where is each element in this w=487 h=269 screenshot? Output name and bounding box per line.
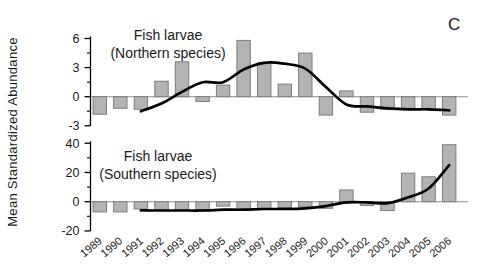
y-tick-label: -20 — [61, 224, 79, 238]
figure-panel: Mean Standardized Abundance C Fish larva… — [0, 0, 487, 269]
bar-1992 — [155, 81, 168, 97]
x-tick-label-1989: 1989 — [78, 234, 104, 259]
y-tick-label: 3 — [73, 61, 80, 75]
bar-1991 — [134, 202, 147, 209]
panel-label: C — [448, 15, 460, 34]
x-tick-label-2006: 2006 — [427, 234, 453, 259]
bar-1994 — [196, 97, 209, 102]
x-tick-label-1992: 1992 — [139, 234, 165, 259]
bar-1991 — [134, 97, 147, 110]
bar-1999 — [299, 202, 312, 207]
x-tick-label-1997: 1997 — [242, 234, 268, 259]
x-tick-label-1999: 1999 — [283, 234, 309, 259]
x-tick-label-1994: 1994 — [180, 234, 206, 259]
bar-2001 — [340, 190, 353, 202]
bar-1999 — [299, 53, 312, 97]
bar-2002 — [360, 97, 373, 113]
y-tick-label: 20 — [66, 166, 80, 180]
bar-1993 — [175, 202, 188, 210]
bar-2001 — [340, 91, 353, 97]
x-axis-year-labels: 1989199019911992199319941995199619971998… — [78, 234, 454, 259]
dual-bar-line-chart: Mean Standardized Abundance C Fish larva… — [0, 0, 487, 269]
bar-1992 — [155, 202, 168, 210]
bar-1997 — [258, 63, 271, 97]
y-tick-label: 40 — [66, 137, 80, 151]
bar-2000 — [319, 97, 332, 115]
bar-2004 — [401, 97, 414, 109]
bar-1989 — [93, 202, 106, 212]
x-tick-label-1998: 1998 — [263, 234, 289, 259]
x-tick-label-1993: 1993 — [160, 234, 186, 259]
x-tick-label-2004: 2004 — [386, 234, 412, 259]
chart-subtitle-northern: (Northern species) — [110, 45, 225, 61]
x-tick-label-1991: 1991 — [119, 234, 145, 259]
y-tick-label: 0 — [73, 195, 80, 209]
bar-1994 — [196, 202, 209, 210]
bar-1990 — [114, 202, 127, 212]
bar-1995 — [216, 202, 229, 206]
x-tick-label-2003: 2003 — [365, 234, 391, 259]
bar-1998 — [278, 202, 291, 208]
y-tick-label: -3 — [68, 119, 79, 133]
x-tick-label-1995: 1995 — [201, 234, 227, 259]
x-tick-label-2005: 2005 — [406, 234, 432, 259]
y-tick-label: 0 — [73, 90, 80, 104]
x-tick-label-1996: 1996 — [221, 234, 247, 259]
x-tick-label-2000: 2000 — [304, 234, 330, 259]
chart-subtitle-southern: (Southern species) — [99, 166, 217, 182]
bar-2006 — [443, 145, 456, 202]
chart-southern-species: -2002040 — [61, 137, 468, 239]
x-tick-label-2002: 2002 — [345, 234, 371, 259]
bar-1995 — [216, 85, 229, 97]
x-tick-label-2001: 2001 — [324, 234, 350, 259]
bar-1989 — [93, 97, 106, 115]
y-axis-label: Mean Standardized Abundance — [5, 37, 20, 227]
x-tick-label-1990: 1990 — [98, 234, 124, 259]
bar-1998 — [278, 84, 291, 97]
bar-1990 — [114, 97, 127, 109]
bar-2005 — [422, 97, 435, 110]
y-tick-label: 6 — [73, 32, 80, 46]
chart-title-northern: Fish larvae — [134, 27, 203, 43]
bar-2006 — [443, 97, 456, 115]
chart-title-southern: Fish larvae — [124, 148, 193, 164]
